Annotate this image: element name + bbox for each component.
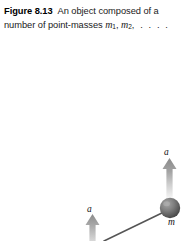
figure-panel: Figure 8.13An object composed of a numbe…: [0, 0, 191, 241]
acceleration-label-right: a: [164, 147, 169, 157]
point-mass-sphere: [160, 198, 180, 218]
acceleration-arrow-left: [86, 214, 100, 241]
point-mass-sphere-highlight: [163, 201, 170, 206]
figure-caption: Figure 8.13An object composed of a numbe…: [4, 5, 189, 34]
figure-illustration: [0, 140, 191, 241]
acceleration-arrow-right: [163, 158, 177, 200]
connecting-rod: [104, 212, 164, 241]
mass-label: m: [168, 217, 175, 227]
caption-ellipsis: , . . . .: [132, 20, 170, 30]
acceleration-label-left: a: [87, 204, 92, 214]
figure-caption-label: Figure 8.13: [4, 6, 53, 16]
